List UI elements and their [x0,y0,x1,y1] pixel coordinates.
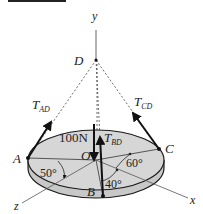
point-o-label: O [81,148,91,163]
point-b-label: B [87,184,95,199]
point-b [101,194,105,198]
z-axis-label: z [13,199,19,213]
point-d [95,59,98,62]
point-d-label: D [73,53,84,68]
point-c-label: C [165,141,174,156]
force-weight-label: 100N [59,130,89,145]
point-c [157,147,161,151]
force-t-ad-label: TAD [32,97,50,114]
header-bar [8,0,66,2]
point-a-label: A [12,151,21,166]
point-a [26,156,30,160]
force-t-cd-label: TCD [134,94,153,111]
y-axis-label: y [91,9,98,23]
x-axis-label: x [189,193,196,207]
angle-a-label: 50° [40,166,57,180]
plate-tension-diagram: y D x z 50° 60° 40° A C B O TAD TCD TBD [0,0,203,214]
angle-c-label: 60° [126,156,143,170]
angle-b-label: 40° [105,177,122,191]
